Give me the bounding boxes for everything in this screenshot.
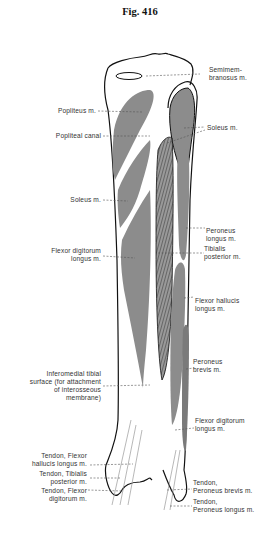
label-peroneus-brevis: Peroneus brevis m.	[193, 358, 222, 374]
label-popliteus: Popliteus m.	[58, 107, 96, 115]
label-line: Popliteus m.	[58, 107, 96, 115]
peroneus-longus-muscle	[177, 148, 189, 261]
label-soleus-right: Soleus m.	[207, 124, 238, 132]
label-flexor-hallucis-longus: Flexor hallucis longus m.	[195, 297, 239, 313]
label-flexor-digitorum-longus-lower: Flexor digitorum longus m.	[195, 417, 245, 433]
label-line: longus m.	[195, 425, 245, 433]
label-line: Tendon,	[193, 498, 254, 506]
peroneus-brevis-muscle	[182, 325, 189, 451]
label-tendon-flexor-hallucis: Tendon, Flexor hallucis longus m.	[32, 452, 87, 468]
tibia-top	[108, 53, 193, 85]
label-flexor-digitorum-longus-upper: Flexor digitorum longus m.	[51, 247, 101, 263]
label-line: Flexor hallucis	[195, 297, 239, 305]
label-line: Popliteal canal	[56, 132, 101, 140]
label-line: longus m.	[206, 235, 236, 243]
label-line: branosus m.	[209, 74, 247, 82]
label-tendon-peroneus-longus: Tendon, Peroneus longus m.	[193, 498, 254, 514]
label-line: longus m.	[195, 305, 239, 313]
label-tendon-flexor-digitorum: Tendon, Flexor digitorum m.	[41, 487, 87, 503]
label-peroneus-longus: Peroneus longus m.	[206, 227, 236, 243]
label-line: posterior m.	[204, 253, 241, 261]
label-line: membrane)	[30, 394, 101, 402]
label-line: Tendon, Flexor	[32, 452, 87, 460]
label-line: Tibialis	[204, 245, 241, 253]
label-tendon-tibialis-posterior: Tendon, Tibialis posterior m.	[39, 470, 87, 486]
label-line: digitorum m.	[41, 495, 87, 503]
label-line: brevis m.	[193, 366, 222, 374]
label-line: of interosseous	[30, 386, 101, 394]
label-line: Peroneus brevis m.	[193, 487, 253, 495]
label-line: Tendon,	[193, 479, 253, 487]
tibial-plateau	[116, 73, 142, 80]
label-line: Flexor digitorum	[195, 417, 245, 425]
label-soleus-left: Soleus m.	[70, 196, 101, 204]
label-line: surface (for attachment	[30, 378, 101, 386]
label-line: Flexor digitorum	[51, 247, 101, 255]
label-line: Peroneus	[193, 358, 222, 366]
label-tibialis-posterior: Tibialis posterior m.	[204, 245, 241, 261]
label-line: Semimem-	[209, 66, 247, 74]
label-tendon-peroneus-brevis: Tendon, Peroneus brevis m.	[193, 479, 253, 495]
label-semimembranosus: Semimem- branosus m.	[209, 66, 247, 82]
label-line: posterior m.	[39, 478, 87, 486]
label-line: Peroneus	[206, 227, 236, 235]
label-line: hallucis longus m.	[32, 460, 87, 468]
label-line: Soleus m.	[207, 124, 238, 132]
label-popliteal-canal: Popliteal canal	[56, 132, 101, 140]
tendon-lines	[112, 420, 180, 510]
label-line: Soleus m.	[70, 196, 101, 204]
label-line: Inferomedial tibial	[30, 370, 101, 378]
label-line: Tendon, Flexor	[41, 487, 87, 495]
label-line: Tendon, Tibialis	[39, 470, 87, 478]
label-line: longus m.	[51, 255, 101, 263]
label-line: Peroneus longus m.	[193, 506, 254, 514]
label-inferomedial-tibial-surface: Inferomedial tibial surface (for attachm…	[30, 370, 101, 402]
